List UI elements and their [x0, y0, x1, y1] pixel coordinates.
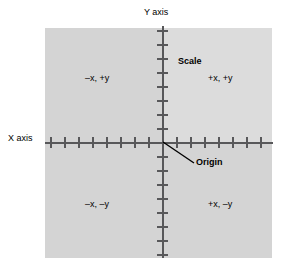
- y-axis-tick: [157, 184, 168, 186]
- x-axis-tick: [148, 137, 150, 148]
- origin-annotation-label: Origin: [196, 157, 223, 168]
- y-axis-tick: [157, 86, 168, 88]
- origin-leader-line: [160, 138, 200, 168]
- x-axis-tick: [134, 137, 136, 148]
- scale-annotation-label: Scale: [178, 56, 202, 67]
- x-axis-tick: [64, 137, 66, 148]
- y-axis-label: Y axis: [144, 7, 168, 18]
- x-axis-tick: [218, 137, 220, 148]
- x-axis-tick: [106, 137, 108, 148]
- x-axis-tick: [78, 137, 80, 148]
- y-axis-tick: [157, 226, 168, 228]
- x-axis-label: X axis: [8, 133, 33, 144]
- x-axis-tick: [204, 137, 206, 148]
- quadrant-1-label: +x, +y: [208, 73, 233, 84]
- y-axis-tick: [157, 254, 168, 256]
- y-axis-tick: [157, 212, 168, 214]
- quadrant-3-label: –x, –y: [85, 199, 109, 210]
- x-axis-tick: [232, 137, 234, 148]
- y-axis-tick: [157, 72, 168, 74]
- quadrant-4-label: +x, –y: [208, 199, 232, 210]
- y-axis-tick: [157, 44, 168, 46]
- y-axis-tick: [157, 100, 168, 102]
- y-axis-tick: [157, 58, 168, 60]
- y-axis-tick: [157, 170, 168, 172]
- x-axis-tick: [260, 137, 262, 148]
- x-axis-tick: [120, 137, 122, 148]
- y-axis-tick: [157, 114, 168, 116]
- x-axis-tick: [246, 137, 248, 148]
- x-axis-tick: [50, 137, 52, 148]
- diagram-canvas: Y axis X axis Scale Origin –x, +y +x, +y…: [0, 0, 296, 272]
- y-axis-tick: [157, 240, 168, 242]
- y-axis-tick: [157, 30, 168, 32]
- x-axis-tick: [92, 137, 94, 148]
- y-axis-tick: [157, 128, 168, 130]
- plot-panel-quadrant-1: [163, 28, 272, 143]
- y-axis-tick: [157, 198, 168, 200]
- quadrant-2-label: –x, +y: [85, 73, 109, 84]
